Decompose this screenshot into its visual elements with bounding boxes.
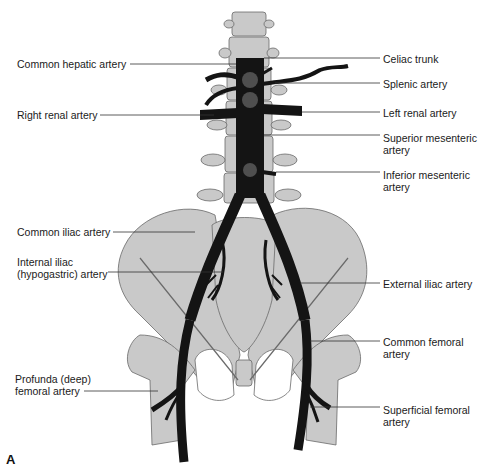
label-superficial-femoral-line2: artery xyxy=(383,416,410,428)
label-ima-line1: Inferior mesenteric xyxy=(383,169,470,181)
label-sma-line2: artery xyxy=(383,144,410,156)
label-celiac-trunk: Celiac trunk xyxy=(383,53,438,65)
panel-letter: A xyxy=(6,452,15,467)
label-profunda-line1: Profunda (deep) xyxy=(15,373,91,385)
label-internal-iliac-line2: (hypogastric) artery xyxy=(17,268,107,280)
label-sma-line1: Superior mesenteric xyxy=(383,132,477,144)
label-common-femoral-line1: Common femoral xyxy=(383,336,464,348)
label-splenic-artery: Splenic artery xyxy=(383,78,447,90)
label-common-femoral-line2: artery xyxy=(383,348,410,360)
label-common-hepatic-artery: Common hepatic artery xyxy=(17,58,126,70)
label-superficial-femoral-line1: Superficial femoral xyxy=(383,404,470,416)
label-ima-line2: artery xyxy=(383,181,410,193)
label-internal-iliac-line1: Internal iliac xyxy=(17,256,73,268)
label-external-iliac-artery: External iliac artery xyxy=(383,278,472,290)
label-left-renal-artery: Left renal artery xyxy=(383,107,457,119)
label-common-iliac-artery: Common iliac artery xyxy=(17,226,110,238)
label-profunda-line2: femoral artery xyxy=(15,385,80,397)
label-right-renal-artery: Right renal artery xyxy=(17,109,98,121)
